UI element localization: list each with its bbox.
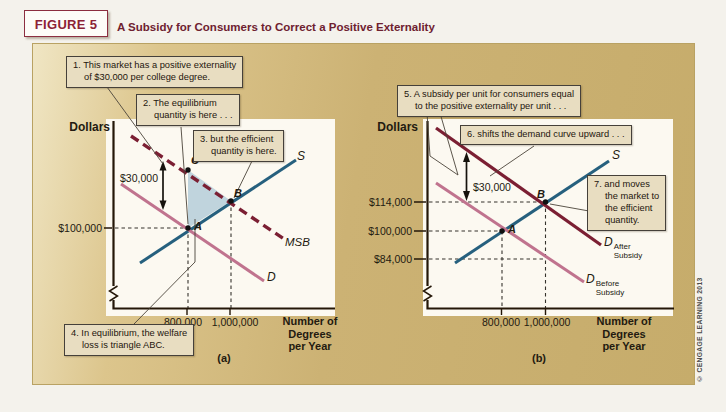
panel-a-point-b-label: B xyxy=(234,187,242,200)
callout-1-line-1: 1. This market has a positive externalit… xyxy=(73,60,236,72)
panel-a-msb-label: MSB xyxy=(285,236,310,249)
panel-b-tag: (b) xyxy=(524,352,554,365)
callout-7-line-2: the market to xyxy=(605,191,659,203)
axis-break-squiggle-a xyxy=(110,286,118,301)
panel-a-externality-amount: $30,000 xyxy=(108,172,158,184)
panel-a-externality-double-arrow xyxy=(160,161,167,210)
callout-1: 1. This market has a positive externalit… xyxy=(66,56,243,88)
callout-7: 7. and moves the market to the efficient… xyxy=(587,175,666,231)
callout-6: 6. shifts the demand curve upward . . . xyxy=(460,125,632,145)
panel-b-demand-after-label: D After Subsidy xyxy=(604,236,642,261)
panel-b-subsidy-amount: $30,000 xyxy=(473,181,511,193)
panel-a-y-axis-title: Dollars xyxy=(60,121,110,135)
panel-b-x-tick-1000000: 1,000,000 xyxy=(514,316,580,328)
panel-b-point-a-label: A xyxy=(508,223,516,236)
panel-b-demand-after-subscript: After Subsidy xyxy=(614,243,642,261)
panel-a-demand-label: D xyxy=(267,271,276,285)
panel-a-dashed-guides xyxy=(115,201,231,308)
panel-b-demand-after-subsidy-curve xyxy=(436,128,601,245)
callout-3: 3. but the efficient quantity is here. xyxy=(193,130,284,162)
panel-b-price-114000: $114,000 xyxy=(354,196,412,208)
panel-b-x-axis-title: Number of Degrees per Year xyxy=(585,315,663,353)
panel-a-price-label: $100,000 xyxy=(44,222,102,234)
callout-5: 5. A subsidy per unit for consumers equa… xyxy=(397,85,581,117)
callout-1-line-2: of $30,000 per college degree. xyxy=(84,72,236,84)
panel-b-demand-before-d: D xyxy=(586,273,595,287)
callout-2-line-1: 2. The equilibrium xyxy=(143,98,233,110)
callout-2: 2. The equilibrium quantity is here . . … xyxy=(136,94,240,126)
callout-2-line-2: quantity is here . . . xyxy=(154,110,233,122)
panel-b-supply-label: S xyxy=(612,149,620,163)
panel-b-price-84000: $84,000 xyxy=(354,253,412,265)
panel-a-x-tick-1000000: 1,000,000 xyxy=(203,316,267,328)
figure-number-box: FIGURE 5 xyxy=(24,10,108,37)
callout-7-line-4: quantity. xyxy=(605,215,659,227)
axis-break-squiggle-b xyxy=(424,286,432,301)
panel-a-point-a-label: A xyxy=(194,220,202,233)
panel-a-tag: (a) xyxy=(209,352,239,365)
callout-5-line-2: to the positive externality per unit . .… xyxy=(415,101,574,113)
callout-4: 4. In equilibrium, the welfare loss is t… xyxy=(64,324,194,356)
callout-5-line-1: 5. A subsidy per unit for consumers equa… xyxy=(404,89,574,101)
panel-b-demand-after-d: D xyxy=(604,236,613,250)
callout-7-line-3: the efficient xyxy=(605,203,659,215)
panel-a-supply-label: S xyxy=(297,150,305,164)
panel-b-y-axis-title: Dollars xyxy=(368,121,418,135)
callout-6-line-1: 6. shifts the demand curve upward . . . xyxy=(467,129,625,141)
copyright-vertical-text: © CENGAGE LEARNING 2013 xyxy=(696,266,706,382)
callout-3-line-1: 3. but the efficient xyxy=(200,134,277,146)
callout-4-line-2: loss is triangle ABC. xyxy=(82,340,187,352)
figure-title: A Subsidy for Consumers to Correct a Pos… xyxy=(117,21,435,33)
callout-4-line-1: 4. In equilibrium, the welfare xyxy=(71,328,187,340)
panel-b-point-b-label: B xyxy=(537,188,545,201)
panel-b-price-100000: $100,000 xyxy=(354,225,412,237)
callout-7-line-1: 7. and moves xyxy=(594,179,659,191)
panel-b-demand-before-label: D Before Subsidy xyxy=(586,273,624,298)
figure-5-screenshot: FIGURE 5 A Subsidy for Consumers to Corr… xyxy=(0,0,726,412)
panel-a-x-axis-title: Number of Degrees per Year xyxy=(271,315,349,353)
panel-b-demand-before-subscript: Before Subsidy xyxy=(596,280,624,298)
panel-b-subsidy-double-arrow xyxy=(463,152,470,201)
callout-3-line-2: quantity is here. xyxy=(211,146,277,158)
